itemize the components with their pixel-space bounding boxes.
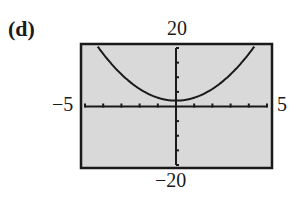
graph-window [0, 0, 304, 203]
